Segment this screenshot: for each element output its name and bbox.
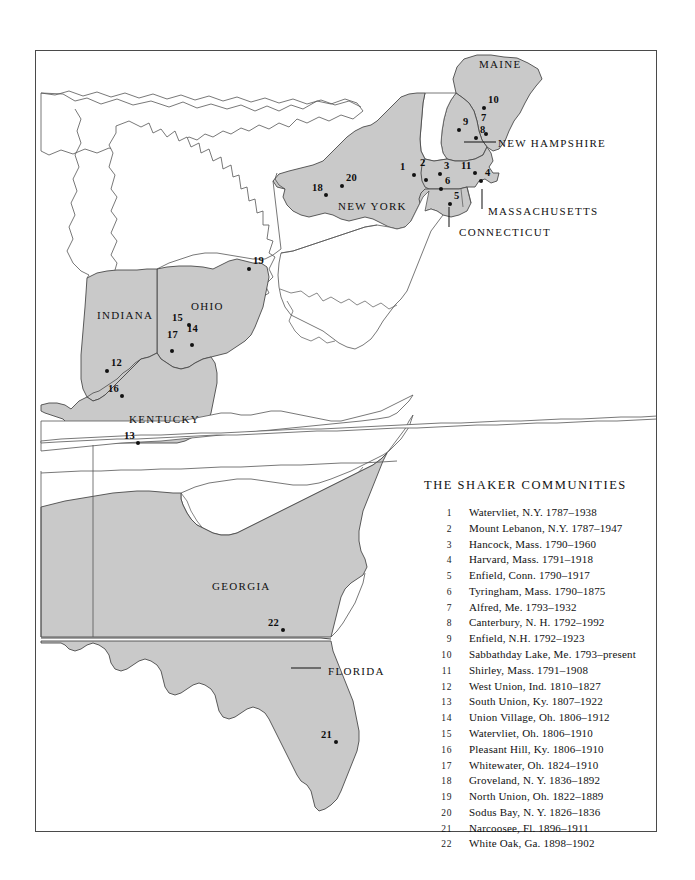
legend-row: 1Watervliet, N.Y. 1787–1938 bbox=[424, 506, 644, 521]
legend-row: 19North Union, Oh. 1822–1889 bbox=[424, 790, 644, 805]
marker-dot-3 bbox=[438, 172, 442, 176]
canada-border-band bbox=[41, 93, 363, 155]
legend-row: 18Groveland, N. Y. 1836–1892 bbox=[424, 774, 644, 789]
legend-number: 4 bbox=[424, 554, 469, 568]
marker-label-11: 11 bbox=[461, 160, 472, 171]
legend-entry-text: Canterbury, N. H. 1792–1992 bbox=[469, 616, 605, 630]
marker-label-1: 1 bbox=[400, 161, 406, 172]
legend-row: 4Harvard, Mass. 1791–1918 bbox=[424, 553, 644, 568]
legend-number: 16 bbox=[424, 744, 469, 758]
legend-entry-text: Hancock, Mass. 1790–1960 bbox=[469, 538, 596, 552]
state-florida bbox=[41, 641, 359, 811]
page-root: MAINE NEW HAMPSHIRE MASSACHUSETTS CONNEC… bbox=[0, 0, 695, 880]
legend-entry-text: Alfred, Me. 1793–1932 bbox=[469, 601, 577, 615]
legend-number: 18 bbox=[424, 775, 469, 789]
legend-row: 13South Union, Ky. 1807–1922 bbox=[424, 695, 644, 710]
legend-list: 1Watervliet, N.Y. 1787–19382Mount Lebano… bbox=[424, 506, 644, 852]
label-kentucky: KENTUCKY bbox=[129, 413, 200, 425]
marker-dot-9 bbox=[457, 128, 461, 132]
marker-label-12: 12 bbox=[111, 357, 122, 368]
legend-row: 14Union Village, Oh. 1806–1912 bbox=[424, 711, 644, 726]
legend-entry-text: Enfield, Conn. 1790–1917 bbox=[469, 569, 590, 583]
legend-number: 7 bbox=[424, 602, 469, 616]
legend-entry-text: Tyringham, Mass. 1790–1875 bbox=[469, 585, 606, 599]
legend-row: 12West Union, Ind. 1810–1827 bbox=[424, 680, 644, 695]
legend-number: 8 bbox=[424, 617, 469, 631]
marker-label-21: 21 bbox=[321, 729, 332, 740]
legend-row: 10Sabbathday Lake, Me. 1793–present bbox=[424, 648, 644, 663]
marker-dot-4 bbox=[479, 179, 483, 183]
marker-dot-2 bbox=[424, 178, 428, 182]
legend-row: 7Alfred, Me. 1793–1932 bbox=[424, 601, 644, 616]
legend-entry-text: Sabbathday Lake, Me. 1793–present bbox=[469, 648, 636, 662]
marker-dot-13 bbox=[136, 441, 140, 445]
marker-label-7: 7 bbox=[481, 112, 487, 123]
legend-number: 12 bbox=[424, 681, 469, 695]
marker-dot-19 bbox=[247, 267, 251, 271]
legend-number: 15 bbox=[424, 728, 469, 742]
legend-number: 2 bbox=[424, 523, 469, 537]
legend-entry-text: Sodus Bay, N. Y. 1826–1836 bbox=[469, 806, 600, 820]
marker-dot-12 bbox=[105, 369, 109, 373]
legend-entry-text: North Union, Oh. 1822–1889 bbox=[469, 790, 604, 804]
legend-row: 22White Oak, Ga. 1898–1902 bbox=[424, 837, 644, 852]
legend-number: 21 bbox=[424, 823, 469, 837]
marker-label-2: 2 bbox=[420, 157, 426, 168]
legend-entry-text: Mount Lebanon, N.Y. 1787–1947 bbox=[469, 522, 623, 536]
marker-dot-21 bbox=[334, 740, 338, 744]
legend-entry-text: Pleasant Hill, Ky. 1806–1910 bbox=[469, 743, 604, 757]
legend-number: 6 bbox=[424, 586, 469, 600]
marker-label-18: 18 bbox=[312, 182, 323, 193]
legend-row: 8Canterbury, N. H. 1792–1992 bbox=[424, 616, 644, 631]
marker-dot-6 bbox=[439, 187, 443, 191]
marker-label-8: 8 bbox=[480, 124, 486, 135]
marker-dot-10 bbox=[482, 106, 486, 110]
legend-entry-text: White Oak, Ga. 1898–1902 bbox=[469, 837, 595, 851]
marker-label-19: 19 bbox=[253, 255, 264, 266]
legend-number: 10 bbox=[424, 649, 469, 663]
legend-entry-text: Enfield, N.H. 1792–1923 bbox=[469, 632, 585, 646]
legend-number: 14 bbox=[424, 712, 469, 726]
label-new-hampshire: NEW HAMPSHIRE bbox=[498, 137, 606, 149]
legend-entry-text: Whitewater, Oh. 1824–1910 bbox=[469, 759, 598, 773]
label-massachusetts: MASSACHUSETTS bbox=[488, 205, 598, 217]
marker-dot-8 bbox=[474, 136, 478, 140]
marker-dot-17 bbox=[170, 349, 174, 353]
marker-dot-1 bbox=[412, 173, 416, 177]
marker-label-4: 4 bbox=[485, 167, 491, 178]
legend-entry-text: West Union, Ind. 1810–1827 bbox=[469, 680, 601, 694]
label-maine: MAINE bbox=[479, 58, 522, 70]
legend-entry-text: Groveland, N. Y. 1836–1892 bbox=[469, 774, 600, 788]
marker-label-5: 5 bbox=[454, 190, 460, 201]
legend-entry-text: Watervliet, N.Y. 1787–1938 bbox=[469, 506, 597, 520]
label-new-york: NEW YORK bbox=[338, 200, 407, 212]
legend-entry-text: South Union, Ky. 1807–1922 bbox=[469, 695, 603, 709]
marker-label-13: 13 bbox=[124, 430, 135, 441]
legend-row: 16Pleasant Hill, Ky. 1806–1910 bbox=[424, 743, 644, 758]
marker-label-9: 9 bbox=[463, 116, 469, 127]
marker-label-17: 17 bbox=[167, 329, 178, 340]
legend-entry-text: Narcoosee, Fl. 1896–1911 bbox=[469, 822, 589, 836]
legend-number: 17 bbox=[424, 760, 469, 774]
legend-row: 17Whitewater, Oh. 1824–1910 bbox=[424, 759, 644, 774]
legend-entry-text: Watervliet, Oh. 1806–1910 bbox=[469, 727, 593, 741]
legend-row: 3Hancock, Mass. 1790–1960 bbox=[424, 538, 644, 553]
legend-title: THE SHAKER COMMUNITIES bbox=[424, 478, 644, 493]
marker-dot-18 bbox=[324, 193, 328, 197]
legend-row: 5Enfield, Conn. 1790–1917 bbox=[424, 569, 644, 584]
west-white-band bbox=[41, 461, 397, 473]
legend-number: 20 bbox=[424, 807, 469, 821]
legend-number: 9 bbox=[424, 633, 469, 647]
legend-row: 20Sodus Bay, N. Y. 1826–1836 bbox=[424, 806, 644, 821]
marker-label-3: 3 bbox=[444, 160, 450, 171]
legend-entry-text: Union Village, Oh. 1806–1912 bbox=[469, 711, 610, 725]
label-indiana: INDIANA bbox=[97, 309, 153, 321]
marker-label-22: 22 bbox=[268, 617, 279, 628]
legend-row: 15Watervliet, Oh. 1806–1910 bbox=[424, 727, 644, 742]
marker-label-6: 6 bbox=[445, 175, 451, 186]
legend-entry-text: Shirley, Mass. 1791–1908 bbox=[469, 664, 588, 678]
marker-dot-16 bbox=[120, 394, 124, 398]
marker-dot-5 bbox=[448, 202, 452, 206]
label-ohio: OHIO bbox=[191, 300, 224, 312]
ga-fl-border bbox=[41, 638, 331, 639]
